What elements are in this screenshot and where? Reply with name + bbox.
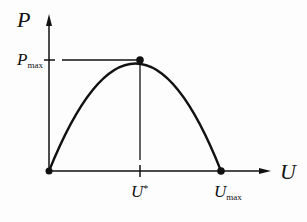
ustar-label: U* — [131, 183, 148, 200]
chart-figure: P Pmax U* Umax U — [0, 0, 307, 222]
power-curve — [49, 64, 221, 172]
umax-label: Umax — [214, 183, 242, 202]
x-axis-label: U — [280, 161, 296, 183]
origin-point — [46, 168, 53, 175]
pmax-label-sub: max — [27, 60, 43, 70]
peak-point — [136, 56, 144, 64]
ustar-label-sup: * — [143, 183, 148, 194]
chart-plot — [0, 0, 307, 222]
y-axis-label: P — [17, 9, 30, 31]
ustar-label-main: U — [131, 182, 143, 201]
x-axis-arrow-icon — [259, 168, 271, 174]
umax-label-main: U — [214, 182, 226, 201]
umax-label-sub: max — [226, 192, 242, 202]
pmax-label: Pmax — [17, 51, 43, 70]
umax-point — [217, 167, 225, 175]
pmax-label-main: P — [17, 50, 27, 69]
y-axis-arrow-icon — [46, 14, 52, 26]
